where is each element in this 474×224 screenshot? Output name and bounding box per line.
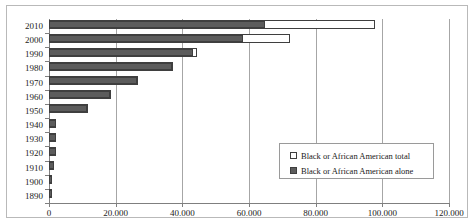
y-axis-tick-label: 1920: [7, 146, 43, 160]
y-axis-tick-label: 1960: [7, 90, 43, 104]
legend-label-total: Black or African American total: [301, 151, 410, 161]
y-axis-tick: [45, 161, 49, 162]
x-axis-tick-label: 60.000: [219, 208, 279, 218]
legend-item-alone[interactable]: Black or African American alone: [280, 163, 433, 178]
y-axis-tick: [45, 118, 49, 119]
legend-swatch-hollow-square-icon: [290, 152, 297, 159]
bar-row: [49, 33, 449, 47]
legend-item-total[interactable]: Black or African American total: [280, 148, 433, 163]
bar-alone[interactable]: [49, 49, 193, 56]
bar-row: [49, 47, 449, 61]
y-axis-tick-label: 1900: [7, 175, 43, 189]
x-axis-tick-label: 40.000: [152, 208, 212, 218]
y-axis-tick-label: 2000: [7, 33, 43, 47]
bar-alone[interactable]: [49, 162, 54, 169]
legend-label-alone: Black or African American alone: [301, 166, 413, 176]
bar-alone[interactable]: [49, 77, 137, 84]
bar-row: [49, 61, 449, 75]
chart-legend[interactable]: Black or African American total Black or…: [279, 143, 434, 179]
bar-row: [49, 90, 449, 104]
x-axis-tick-label: 120.000: [419, 208, 474, 218]
y-axis-tick: [45, 47, 49, 48]
bar-alone[interactable]: [49, 35, 243, 42]
bar-alone[interactable]: [49, 120, 56, 127]
bar-alone[interactable]: [49, 134, 56, 141]
x-axis-tick-label: 100.000: [352, 208, 412, 218]
y-axis-tick: [45, 189, 49, 190]
x-axis-tick: [49, 203, 50, 207]
y-axis-tick: [45, 76, 49, 77]
y-axis-tick-label: 1990: [7, 47, 43, 61]
x-axis-tick: [249, 203, 250, 207]
y-axis-tick-label: 1930: [7, 132, 43, 146]
y-axis-tick-label: 2010: [7, 19, 43, 33]
x-axis-tick: [382, 203, 383, 207]
y-axis-tick-label: 1890: [7, 189, 43, 203]
legend-swatch-filled-square-icon: [290, 167, 297, 174]
x-axis-tick: [116, 203, 117, 207]
x-axis-tick-label: 0: [19, 208, 79, 218]
bar-row: [49, 76, 449, 90]
y-axis-tick: [45, 175, 49, 176]
bar-row: [49, 104, 449, 118]
y-axis-tick: [45, 132, 49, 133]
y-axis-tick-label: 1970: [7, 76, 43, 90]
y-axis-tick: [45, 104, 49, 105]
bar-alone[interactable]: [49, 176, 52, 183]
bar-alone[interactable]: [49, 148, 56, 155]
y-axis-tick: [45, 146, 49, 147]
y-axis-tick-label: 1980: [7, 61, 43, 75]
bar-alone[interactable]: [49, 21, 265, 28]
y-axis-tick: [45, 33, 49, 34]
bar-alone[interactable]: [49, 105, 87, 112]
x-axis-tick: [182, 203, 183, 207]
x-axis-tick-label: 20.000: [86, 208, 146, 218]
bar-alone[interactable]: [49, 190, 52, 197]
y-axis-tick-label: 1950: [7, 104, 43, 118]
gridline: [449, 19, 450, 203]
y-axis-tick-label: 1940: [7, 118, 43, 132]
x-axis-tick-label: 80.000: [286, 208, 346, 218]
bar-row: [49, 189, 449, 203]
y-axis-tick-label: 1910: [7, 161, 43, 175]
chart-frame: 2010200019901980197019601950194019301920…: [6, 5, 468, 218]
x-axis-tick: [449, 203, 450, 207]
y-axis-tick: [45, 61, 49, 62]
bar-row: [49, 19, 449, 33]
x-axis-tick: [316, 203, 317, 207]
y-axis-tick: [45, 90, 49, 91]
bar-alone[interactable]: [49, 63, 172, 70]
bar-alone[interactable]: [49, 91, 110, 98]
bar-row: [49, 118, 449, 132]
